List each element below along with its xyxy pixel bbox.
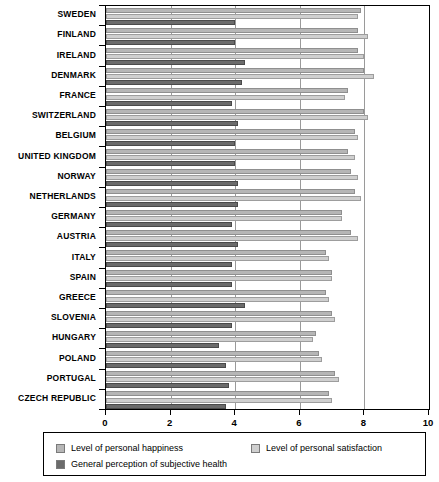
- y-tick: [99, 389, 105, 390]
- y-tick: [99, 167, 105, 168]
- legend-item-health: General perception of subjective health: [56, 459, 227, 469]
- category-axis-labels: SWEDENFINLANDIRELANDDENMARKFRANCESWITZER…: [0, 5, 100, 409]
- bar-health: [106, 242, 238, 247]
- category-label: BELGIUM: [55, 131, 96, 140]
- bar-happiness: [106, 8, 361, 13]
- bar-happiness: [106, 68, 364, 73]
- bar-health: [106, 121, 238, 126]
- category-label: FINLAND: [57, 30, 96, 39]
- bar-satisfaction: [106, 135, 358, 140]
- bar-happiness: [106, 290, 326, 295]
- bar-satisfaction: [106, 398, 332, 403]
- bar-satisfaction: [106, 357, 322, 362]
- legend-swatch-happiness-icon: [56, 444, 65, 453]
- y-tick: [99, 45, 105, 46]
- x-tick-label: 4: [232, 417, 237, 428]
- bar-happiness: [106, 351, 319, 356]
- category-label: PORTUGAL: [47, 373, 96, 382]
- bar-happiness: [106, 48, 358, 53]
- bar-health: [106, 363, 226, 368]
- bar-satisfaction: [106, 155, 355, 160]
- bar-happiness: [106, 270, 332, 275]
- x-tick: [299, 409, 300, 415]
- bar-satisfaction: [106, 196, 361, 201]
- category-label: POLAND: [59, 353, 96, 362]
- bar-health: [106, 101, 232, 106]
- bar-happiness: [106, 129, 355, 134]
- bar-health: [106, 202, 238, 207]
- bar-health: [106, 343, 219, 348]
- bar-health: [106, 161, 235, 166]
- bar-satisfaction: [106, 297, 329, 302]
- x-tick-label: 8: [361, 417, 366, 428]
- bar-health: [106, 303, 245, 308]
- bar-satisfaction: [106, 14, 358, 19]
- bar-satisfaction: [106, 216, 342, 221]
- bar-happiness: [106, 391, 329, 396]
- category-label: FRANCE: [59, 90, 96, 99]
- y-tick: [99, 369, 105, 370]
- bar-health: [106, 60, 245, 65]
- legend-swatch-health-icon: [56, 460, 65, 469]
- bar-health: [106, 383, 229, 388]
- bar-happiness: [106, 109, 364, 114]
- x-tick: [363, 409, 364, 415]
- y-tick: [99, 308, 105, 309]
- y-tick: [99, 86, 105, 87]
- bar-satisfaction: [106, 95, 345, 100]
- bar-health: [106, 80, 242, 85]
- category-label: CZECH REPUBLIC: [18, 393, 96, 402]
- category-label: UNITED KINGDOM: [18, 151, 96, 160]
- category-label: GREECE: [59, 292, 96, 301]
- x-tick: [428, 409, 429, 415]
- x-tick-label: 0: [102, 417, 107, 428]
- chart-container: SWEDENFINLANDIRELANDDENMARKFRANCESWITZER…: [0, 0, 439, 482]
- bar-satisfaction: [106, 236, 358, 241]
- bar-satisfaction: [106, 317, 335, 322]
- y-tick: [99, 227, 105, 228]
- y-tick: [99, 268, 105, 269]
- legend-item-happiness: Level of personal happiness: [56, 443, 183, 453]
- category-label: IRELAND: [57, 50, 96, 59]
- bar-satisfaction: [106, 337, 313, 342]
- bar-happiness: [106, 28, 358, 33]
- bar-happiness: [106, 250, 326, 255]
- bar-happiness: [106, 331, 316, 336]
- plot-area: [105, 5, 430, 410]
- y-tick: [99, 288, 105, 289]
- bar-happiness: [106, 149, 348, 154]
- x-tick-label: 6: [296, 417, 301, 428]
- bar-happiness: [106, 88, 348, 93]
- bar-health: [106, 282, 232, 287]
- gridline-6: [300, 6, 301, 410]
- y-tick: [99, 25, 105, 26]
- category-label: AUSTRIA: [57, 232, 96, 241]
- bar-health: [106, 323, 232, 328]
- category-label: SLOVENIA: [51, 313, 96, 322]
- y-tick: [99, 146, 105, 147]
- bar-satisfaction: [106, 276, 332, 281]
- bar-health: [106, 262, 232, 267]
- bar-satisfaction: [106, 54, 364, 59]
- y-tick: [99, 247, 105, 248]
- category-label: SWEDEN: [57, 10, 96, 19]
- gridline-4: [235, 6, 236, 410]
- x-axis-line: [105, 409, 429, 410]
- bar-happiness: [106, 311, 332, 316]
- x-tick: [170, 409, 171, 415]
- bar-happiness: [106, 230, 351, 235]
- category-label: HUNGARY: [52, 333, 96, 342]
- bar-satisfaction: [106, 74, 374, 79]
- y-tick: [99, 328, 105, 329]
- bar-health: [106, 40, 235, 45]
- y-tick: [99, 348, 105, 349]
- bar-health: [106, 141, 235, 146]
- category-label: NETHERLANDS: [30, 191, 96, 200]
- legend-label-health: General perception of subjective health: [71, 459, 227, 469]
- category-label: SPAIN: [70, 272, 96, 281]
- bar-happiness: [106, 189, 355, 194]
- bar-health: [106, 222, 232, 227]
- y-tick: [99, 207, 105, 208]
- chart-legend: Level of personal happiness Level of per…: [43, 432, 426, 476]
- bar-satisfaction: [106, 34, 368, 39]
